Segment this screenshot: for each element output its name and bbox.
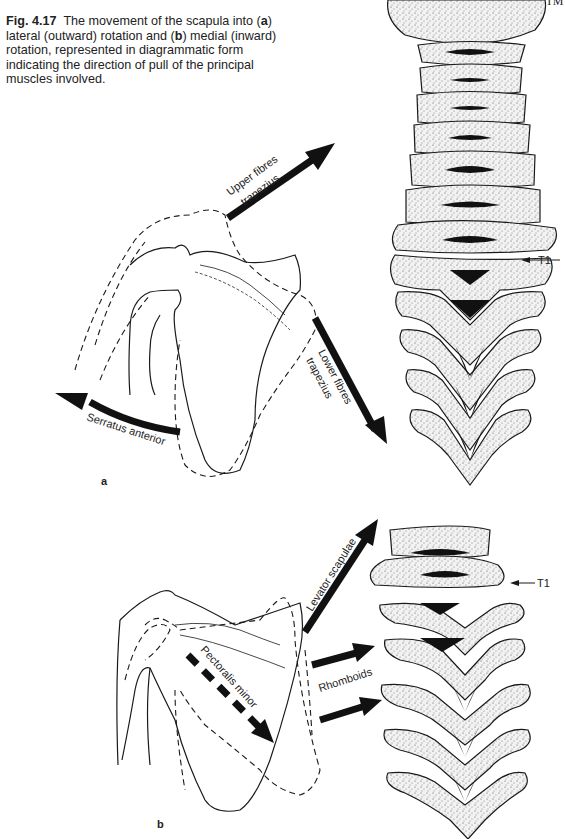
scapula-b [117, 591, 320, 812]
scapula-rotation-figure: T1 Upper fibres trapezius Lower fibres t… [0, 0, 565, 839]
panel-b-label: b [157, 818, 164, 830]
rhomboids-arrow-upper [312, 643, 375, 665]
panel-a-label: a [101, 475, 108, 487]
scapula-a [75, 210, 316, 476]
arrow-head-icon [55, 393, 88, 410]
t1-label-b: T1 [537, 577, 550, 589]
t1-marker-b: T1 [510, 577, 550, 589]
skull-base [388, 0, 546, 43]
arrow-head-icon [355, 519, 378, 546]
label-rhomboids: Rhomboids [317, 665, 374, 694]
scapula-b-dashed [145, 598, 320, 795]
rhomboids-arrow-lower [320, 697, 382, 720]
label-levator-scapulae: Levator scapulae [304, 536, 359, 613]
levator-scapulae-arrow [305, 519, 378, 632]
scapula-a-dashed-outer [75, 210, 316, 476]
t1-arrow-icon [510, 580, 519, 586]
arrow-head-icon [352, 643, 375, 662]
arrow-head-icon [359, 697, 382, 716]
t1-label-a: T1 [538, 254, 551, 266]
